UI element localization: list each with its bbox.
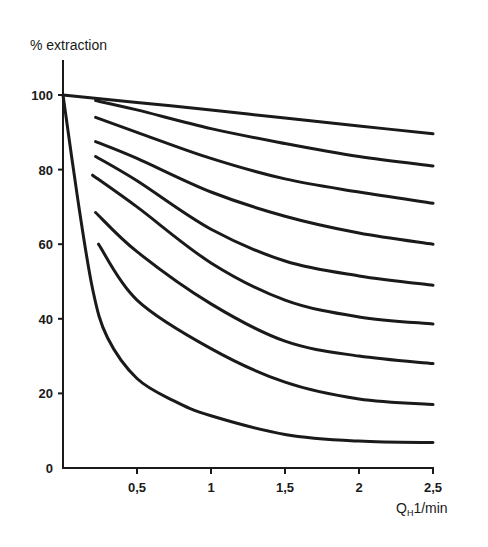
curve-8 — [99, 244, 434, 404]
x-tick-label: 2,5 — [424, 480, 442, 495]
y-tick-label: 40 — [39, 312, 53, 327]
y-ticks: 020406080100 — [31, 88, 63, 476]
y-axis-title: % extraction — [30, 37, 107, 53]
x-tick-label: 0,5 — [128, 480, 146, 495]
y-tick-label: 0 — [46, 461, 53, 476]
y-tick-label: 60 — [39, 237, 53, 252]
curve-6 — [93, 175, 433, 324]
curve-2 — [96, 101, 433, 166]
curve-5 — [96, 157, 433, 286]
curves — [63, 95, 433, 443]
curve-1 — [63, 95, 433, 134]
y-tick-label: 80 — [39, 163, 53, 178]
x-tick-label: 1,5 — [276, 480, 294, 495]
curve-4 — [96, 142, 433, 245]
y-tick-label: 100 — [31, 88, 53, 103]
curve-7 — [96, 213, 433, 364]
x-axis-title: QH1/min — [396, 500, 448, 518]
x-axis-title-main: Q — [396, 500, 407, 516]
y-tick-label: 20 — [39, 386, 53, 401]
x-ticks: 0,511,522,5 — [128, 468, 442, 495]
extraction-chart: % extraction 020406080100 0,511,522,5 QH… — [0, 0, 488, 547]
curve-9 — [63, 95, 433, 443]
x-tick-label: 2 — [355, 480, 362, 495]
x-axis-title-unit: 1/min — [413, 500, 447, 516]
x-tick-label: 1 — [207, 480, 214, 495]
